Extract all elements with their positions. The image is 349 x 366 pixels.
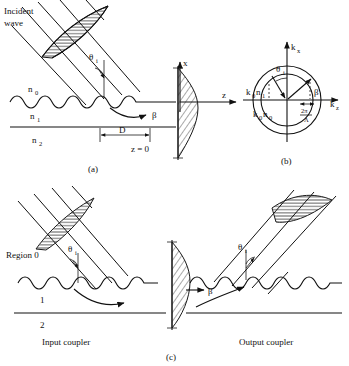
grating-corrugation-input (18, 277, 158, 289)
axis-kz-sub-b: z (336, 104, 339, 111)
radius-label-k0n1: k 0 n 1 (246, 87, 265, 99)
output-coupler-label: Output coupler (239, 337, 293, 347)
output-coupler-group: θ i Output coupler (186, 190, 342, 347)
figure-root: Incident wave θ i n 0 n 1 n 2 β x (0, 0, 349, 366)
caption-c: (c) (166, 352, 176, 362)
k0n1-sub0: 0 (252, 92, 255, 99)
theta-i-sub-output: i (245, 247, 247, 254)
k0n1-n: n (256, 87, 261, 97)
diffracted-k-vector-b (288, 79, 311, 99)
caption-a: (a) (88, 164, 98, 174)
k0n0-sub1: 0 (269, 114, 272, 121)
grating-corrugation-a (10, 96, 176, 108)
panel-a: Incident wave θ i n 0 n 1 n 2 β x (4, 0, 236, 174)
region-2-label: 2 (40, 320, 45, 330)
region-1-label: 1 (40, 295, 45, 305)
incident-wave-label-line2: wave (4, 18, 23, 28)
k0n1-k: k (246, 87, 251, 97)
grating-length-dimension-a: D (100, 125, 150, 142)
theta-i-sub-b: i (283, 69, 285, 76)
index-n1-label: n (30, 111, 35, 121)
caption-b: (b) (281, 156, 292, 166)
mode-profile-c: β (167, 240, 213, 330)
theta-i-sub-input: i (75, 249, 77, 256)
theta-i-sub-a: i (96, 57, 98, 64)
index-n1-sub: 1 (37, 116, 40, 123)
index-n2-label: n (32, 135, 37, 145)
beta-arrow-a (110, 108, 146, 117)
panel-b: k x k z k 0 n 1 k 0 n 0 θ i β (243, 42, 339, 166)
input-coupler-group: Region 0 θ i 1 2 Input coupler (6, 186, 166, 347)
beta-label-a: β (152, 110, 157, 120)
grating-vector-denominator: Λ (304, 116, 309, 123)
theta-i-label-output: θ (238, 242, 242, 252)
index-n0-label: n (28, 84, 33, 94)
k0n0-k: k (253, 109, 258, 119)
mode-profile-a (173, 66, 198, 160)
axis-x-label-a: x (183, 58, 188, 68)
coupling-arrow-input (74, 289, 124, 305)
index-n0-sub: 0 (35, 89, 38, 96)
beta-label-c: β (208, 286, 213, 296)
z-origin-label-a: z = 0 (131, 144, 150, 154)
k0n0-sub0: 0 (259, 114, 262, 121)
theta-i-arc-b (276, 78, 287, 81)
grating-vector-numerator: 2π (301, 107, 308, 114)
axis-z-label-a: z (222, 90, 226, 100)
grating-coupler-figure: Incident wave θ i n 0 n 1 n 2 β x (0, 0, 349, 366)
incident-wave-label-line1: Incident (4, 6, 34, 16)
index-n2-sub: 2 (39, 140, 42, 147)
theta-i-label-b: θ (276, 64, 280, 74)
incident-k-vector-b (272, 76, 285, 98)
region-0-label: Region 0 (6, 250, 39, 260)
theta-i-label-input: θ (68, 244, 72, 254)
theta-i-label-a: θ (89, 52, 93, 62)
input-coupler-label: Input coupler (42, 337, 90, 347)
index-labels-a: n 0 n 1 n 2 (28, 84, 42, 147)
k0n0-n: n (263, 109, 268, 119)
grating-corrugation-output (190, 277, 342, 289)
axis-kz-label-b: k (330, 99, 335, 109)
axis-kx-label-b: k (291, 42, 296, 52)
output-beam-envelope (272, 195, 332, 222)
k0n1-sub1: 1 (262, 92, 265, 99)
beta-label-b: β (314, 87, 319, 97)
grating-length-label-a: D (119, 125, 126, 135)
axis-kx-sub-b: x (297, 47, 301, 54)
radius-label-k0n0: k 0 n 0 (253, 109, 272, 121)
panel-c: Region 0 θ i 1 2 Input coupler β (6, 186, 342, 362)
